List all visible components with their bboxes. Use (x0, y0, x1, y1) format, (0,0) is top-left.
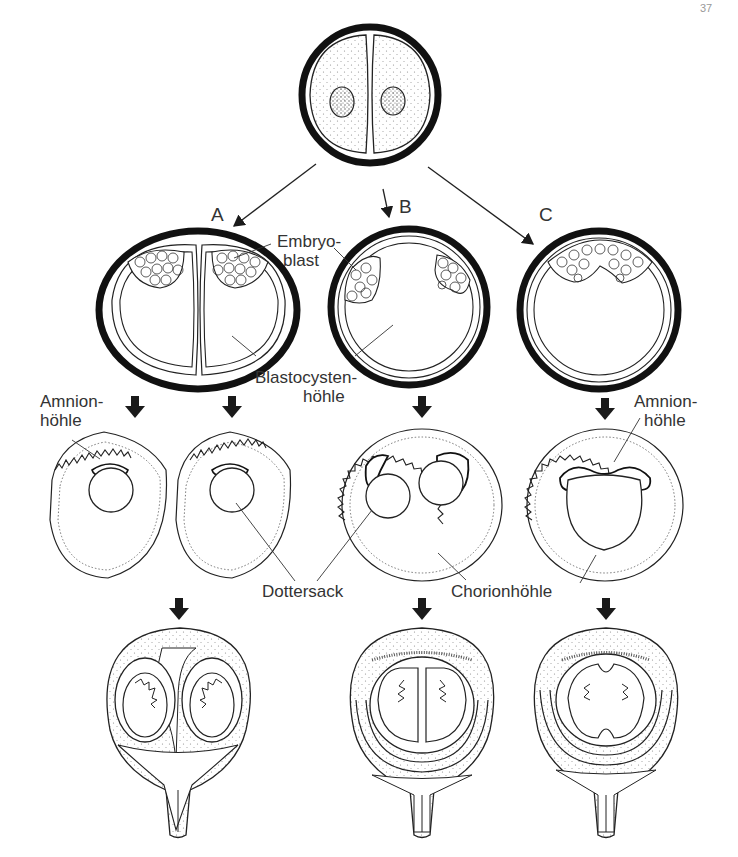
label-embryoblast-line1: Embryo- (277, 232, 341, 251)
diagram-canvas (0, 0, 738, 857)
blastocyst-a (99, 231, 297, 389)
label-chorionic-cavity: Chorionhöhle (451, 582, 552, 601)
label-amnion-cavity-right: Amnion- höhle (634, 392, 697, 430)
implantation-a-left (50, 432, 167, 578)
branch-label-b: B (399, 196, 412, 218)
label-blastocyst-line1: Blastocysten- (255, 368, 357, 387)
fetus-uterus-b (350, 628, 493, 838)
down-arrows-row3 (169, 598, 616, 620)
label-blastocyst-cavity: Blastocysten- höhle (255, 368, 357, 406)
implantation-c (525, 429, 683, 581)
label-embryoblast: Embryo- blast (277, 232, 341, 270)
implantation-a-right (176, 432, 291, 578)
label-blastocyst-line2: höhle (255, 387, 357, 406)
implantation-b (338, 429, 502, 581)
label-amnion-cavity-left: Amnion- höhle (40, 392, 103, 430)
blastocyst-c (520, 231, 678, 389)
label-amnion-right-line2: höhle (634, 411, 697, 430)
label-amnion-left-line2: höhle (40, 411, 103, 430)
fetus-uterus-c (534, 628, 677, 838)
label-embryoblast-line2: blast (277, 251, 341, 270)
branch-label-a: A (211, 204, 224, 226)
branch-label-c: C (539, 204, 553, 226)
label-yolk-sac: Dottersack (262, 582, 343, 601)
two-cell-zygote (302, 27, 438, 163)
blastocyst-b (331, 229, 487, 385)
label-amnion-left-line1: Amnion- (40, 392, 103, 411)
label-amnion-right-line1: Amnion- (634, 392, 697, 411)
fetus-uterus-a (107, 628, 250, 838)
down-arrows-row2 (125, 396, 615, 420)
